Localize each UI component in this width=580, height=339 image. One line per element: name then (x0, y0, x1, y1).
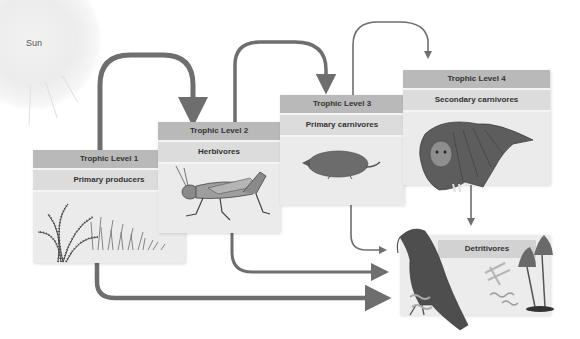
arrow-l2-to-detritivores (232, 233, 380, 272)
vulture-worms-mushrooms-icon (390, 225, 560, 335)
owl-icon (403, 112, 550, 185)
trophic-level-3-header: Trophic Level 3 (280, 95, 404, 115)
trophic-level-2-title: Herbivores (158, 142, 280, 164)
grasshopper-icon (158, 164, 280, 233)
arrow-l3-to-detritivores (351, 205, 383, 250)
trophic-level-4-header: Trophic Level 4 (403, 70, 550, 90)
trophic-level-4-panel: Trophic Level 4 Secondary carnivores (403, 70, 550, 185)
trophic-level-2-panel: Trophic Level 2 Herbivores (158, 122, 280, 233)
trophic-level-3-title: Primary carnivores (280, 115, 404, 137)
trophic-level-4-title: Secondary carnivores (403, 90, 550, 112)
shrew-icon (280, 137, 404, 205)
trophic-level-2-header: Trophic Level 2 (158, 122, 280, 142)
trophic-level-3-panel: Trophic Level 3 Primary carnivores (280, 95, 404, 205)
